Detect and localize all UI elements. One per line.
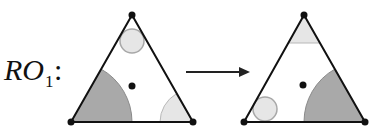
vertex-top <box>301 12 308 19</box>
arrow-head-icon <box>239 67 250 77</box>
operation-label: RO 1 : <box>3 53 62 91</box>
left-triangle <box>68 12 197 126</box>
right-triangle <box>241 10 369 126</box>
vertex-bottom-right <box>190 119 197 126</box>
label-main: RO <box>3 53 44 86</box>
vertex-bottom-left <box>241 119 248 126</box>
label-colon: : <box>54 53 62 86</box>
dark-sector-bottom-left <box>71 69 132 122</box>
vertex-bottom-left <box>68 119 75 126</box>
label-subscript: 1 <box>45 72 54 91</box>
dark-sector-bottom-right <box>304 69 365 122</box>
circle-top <box>120 29 144 53</box>
reorientation-diagram: RO 1 : <box>0 0 381 129</box>
center-dot <box>300 82 307 89</box>
light-sector-bottom-right <box>160 94 193 122</box>
vertex-top <box>129 12 136 19</box>
vertex-bottom-right <box>362 119 369 126</box>
center-dot <box>129 83 136 90</box>
transform-arrow <box>186 67 250 77</box>
